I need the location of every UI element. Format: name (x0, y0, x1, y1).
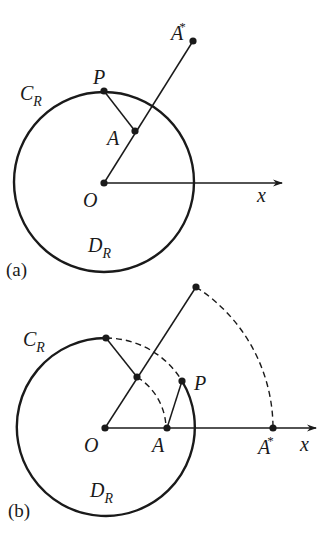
point-rotated-a-star (192, 283, 199, 290)
label-o: O (83, 189, 97, 211)
ray-o-a-star (104, 41, 193, 183)
label-p: P (193, 372, 206, 394)
diagram-canvas: CR P A A* O x DR (a) CR P (0, 0, 321, 547)
label-x: x (256, 184, 266, 206)
label-o: O (84, 434, 98, 456)
label-a-star: A* (256, 433, 274, 458)
point-a-star (269, 424, 276, 431)
label-p: P (92, 66, 105, 88)
segment-rotated-p-a (106, 338, 137, 377)
point-a (163, 424, 170, 431)
panel-tag-b: (b) (8, 500, 30, 522)
arc-rotation-a-star (196, 287, 273, 428)
point-p (100, 87, 107, 94)
panel-b: CR P O A A* x DR (b) (8, 283, 316, 522)
segment-a-p (167, 381, 182, 428)
point-p (178, 377, 185, 384)
panel-a: CR P A A* O x DR (a) (6, 19, 282, 281)
point-o (100, 179, 107, 186)
label-c-r: CR (23, 328, 45, 355)
arc-rotation-a (137, 377, 166, 428)
point-rotated-p (102, 334, 109, 341)
label-a: A (150, 434, 165, 456)
label-c-r: CR (20, 82, 42, 109)
point-a (131, 127, 138, 134)
label-d-r: DR (87, 234, 111, 261)
label-x: x (299, 433, 309, 455)
label-a: A (105, 127, 120, 149)
panel-tag-a: (a) (6, 259, 27, 281)
point-o (101, 424, 108, 431)
circle-c-r-dashed-arc (106, 338, 182, 381)
point-a-star (189, 37, 196, 44)
label-a-star: A* (169, 19, 186, 44)
ray-o-rotated (105, 287, 196, 428)
point-rotated-a (133, 373, 140, 380)
label-d-r: DR (89, 479, 113, 506)
